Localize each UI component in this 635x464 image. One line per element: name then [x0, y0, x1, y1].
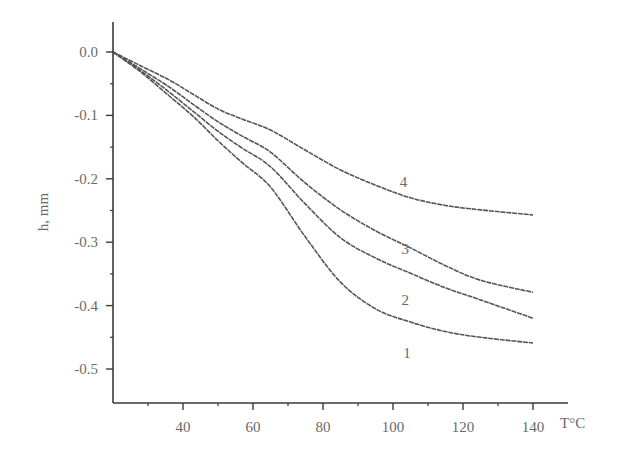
- x-tick-label: 40: [176, 419, 191, 435]
- curve-label-4: 4: [400, 174, 408, 190]
- y-tick-label: -0.2: [74, 171, 98, 187]
- curve-4: [113, 52, 533, 215]
- chart-canvas: 0.0-0.1-0.2-0.3-0.4-0.5 406080100120140 …: [0, 0, 635, 464]
- y-tick-label: -0.4: [74, 298, 98, 314]
- y-axis-ticks: 0.0-0.1-0.2-0.3-0.4-0.5: [74, 44, 113, 377]
- x-tick-label: 60: [246, 419, 261, 435]
- x-tick-label: 120: [452, 419, 475, 435]
- plot-curves: [113, 52, 533, 343]
- y-tick-label: 0.0: [79, 44, 98, 60]
- y-axis-title: h, mm: [35, 193, 51, 232]
- x-tick-label: 100: [382, 419, 405, 435]
- y-tick-label: -0.5: [74, 361, 98, 377]
- x-axis-title: T°C: [560, 415, 585, 431]
- x-tick-label: 80: [316, 419, 331, 435]
- curve-label-1: 1: [403, 345, 411, 361]
- curve-label-3: 3: [402, 241, 410, 257]
- axes: 0.0-0.1-0.2-0.3-0.4-0.5 406080100120140: [74, 22, 568, 435]
- y-tick-label: -0.3: [74, 234, 98, 250]
- curve-labels: 1234: [400, 174, 411, 361]
- y-tick-label: -0.1: [74, 107, 98, 123]
- curve-label-2: 2: [402, 292, 410, 308]
- x-tick-label: 140: [522, 419, 545, 435]
- curve-3: [113, 52, 533, 292]
- x-axis-ticks: 406080100120140: [148, 403, 544, 435]
